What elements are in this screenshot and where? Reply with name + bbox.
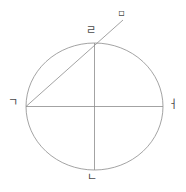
point-label-left: ㄱ — [8, 97, 18, 108]
point-label-top: ㄹ — [86, 25, 96, 36]
point-label-bottom: ㄴ — [87, 172, 97, 183]
geometry-figure: ㄱ ㅓ ㄴ ㄹ ▫ — [0, 0, 186, 192]
point-label-right: ㅓ — [168, 99, 178, 110]
diagonal-ray-line — [26, 20, 123, 107]
point-label-ray-end: ▫ — [118, 7, 125, 18]
